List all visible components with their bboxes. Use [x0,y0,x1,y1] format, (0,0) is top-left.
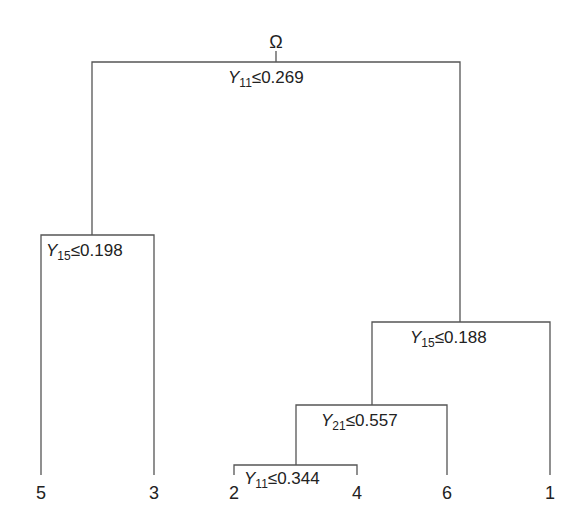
split-label-y15-0188: Y15≤0.188 [410,329,487,349]
leaf-1: 1 [545,484,555,502]
leaf-2: 2 [229,484,239,502]
split-label-y21-0557: Y21≤0.557 [321,412,398,432]
leaf-4: 4 [352,484,362,502]
root-omega-label: Ω [269,33,282,51]
split-label-y15-0198: Y15≤0.198 [46,242,123,262]
split-label-y11-0344: Y11≤0.344 [244,470,320,490]
split-label-y11-0269: Y11≤0.269 [228,69,304,89]
leaf-3: 3 [149,484,159,502]
leaf-5: 5 [36,484,46,502]
leaf-6: 6 [442,484,452,502]
